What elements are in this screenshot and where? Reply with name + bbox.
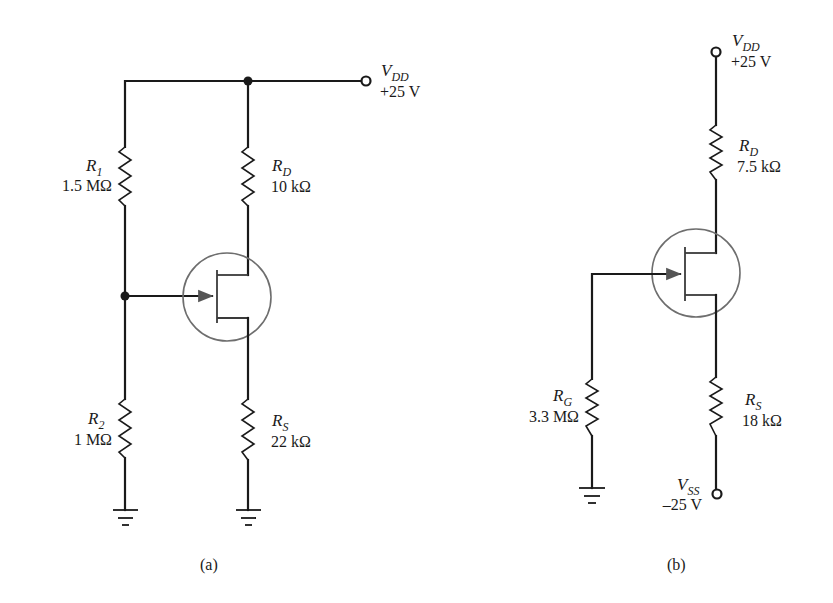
gate-wire-b [592, 274, 680, 379]
resistor-r2-icon [119, 399, 131, 458]
label-rd-a: RD 10 kΩ [271, 156, 311, 195]
ground-icon [236, 510, 261, 525]
circuit-b: VDD +25 V RD 7.5 kΩ RG 3.3 MΩ RS 18 kΩ V… [529, 31, 782, 574]
svg-text:RD: RD [738, 136, 758, 159]
svg-text:10 kΩ: 10 kΩ [271, 178, 311, 195]
svg-text:18 kΩ: 18 kΩ [742, 412, 782, 429]
vdd-rail-a [125, 81, 361, 147]
label-rg: RG 3.3 MΩ [529, 386, 579, 425]
svg-text:+25 V: +25 V [380, 83, 421, 100]
svg-text:+25 V: +25 V [731, 53, 772, 70]
label-rs-a: RS 22 kΩ [271, 411, 311, 450]
label-r2: R2 1 MΩ [74, 409, 112, 448]
vdd-terminal-a[interactable] [362, 77, 371, 86]
resistor-r1-icon [119, 147, 131, 206]
vdd-terminal-b[interactable] [712, 48, 721, 57]
svg-text:22 kΩ: 22 kΩ [271, 433, 311, 450]
resistor-rg-icon [586, 379, 598, 436]
circuit-figure: VDD +25 V R1 1.5 MΩ R2 1 MΩ RD 10 kΩ RS … [0, 0, 833, 603]
svg-text:RS: RS [744, 390, 761, 413]
ground-icon [113, 510, 138, 525]
svg-text:R2: R2 [87, 409, 104, 432]
label-vdd-b: VDD +25 V [731, 31, 772, 70]
ground-icon [579, 488, 605, 503]
svg-text:R1: R1 [85, 156, 102, 179]
svg-text:3.3 MΩ: 3.3 MΩ [529, 408, 579, 425]
svg-text:RD: RD [271, 156, 291, 179]
label-vdd-a: VDD +25 V [380, 61, 421, 100]
resistor-rs-a-icon [242, 399, 254, 460]
circuit-a: VDD +25 V R1 1.5 MΩ R2 1 MΩ RD 10 kΩ RS … [62, 61, 421, 574]
label-vss-b: VSS –25 V [662, 475, 703, 513]
svg-text:RG: RG [552, 386, 572, 409]
resistor-rd-b-icon [710, 125, 722, 180]
label-rs-b: RS 18 kΩ [742, 390, 782, 429]
resistor-rs-b-icon [710, 377, 722, 436]
svg-text:VDD: VDD [381, 61, 409, 84]
label-r1: R1 1.5 MΩ [62, 156, 112, 194]
caption-b: (b) [667, 556, 686, 574]
resistor-rd-a-icon [242, 147, 254, 206]
svg-text:1 MΩ: 1 MΩ [74, 431, 112, 448]
svg-text:1.5 MΩ: 1.5 MΩ [62, 177, 112, 194]
vss-terminal-b[interactable] [713, 490, 722, 499]
svg-text:RS: RS [271, 411, 288, 434]
svg-text:7.5 kΩ: 7.5 kΩ [737, 158, 781, 175]
label-rd-b: RD 7.5 kΩ [737, 136, 781, 175]
caption-a: (a) [200, 556, 218, 574]
svg-text:VDD: VDD [732, 31, 760, 54]
svg-text:VSS: VSS [677, 475, 699, 498]
svg-text:–25 V: –25 V [662, 496, 703, 513]
